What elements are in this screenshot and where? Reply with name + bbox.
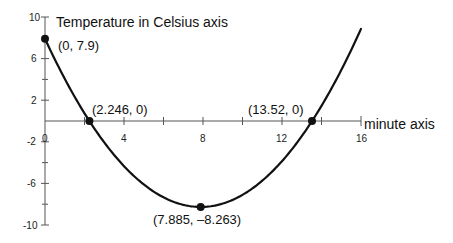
x-tick-label-16: 16 bbox=[356, 133, 368, 144]
marked-points bbox=[41, 35, 316, 211]
y-tick-label-neg2: -2 bbox=[27, 136, 36, 147]
y-tick-label-neg10: -10 bbox=[23, 220, 38, 231]
x-tick-label-8: 8 bbox=[200, 133, 206, 144]
point-root-1 bbox=[85, 117, 93, 125]
point-label-root-2: (13.52, 0) bbox=[248, 102, 304, 117]
x-tick-label-0: 0 bbox=[42, 133, 48, 144]
x-tick-label-12: 12 bbox=[276, 133, 288, 144]
y-tick-label-neg6: -6 bbox=[27, 178, 36, 189]
point-label-start: (0, 7.9) bbox=[58, 38, 99, 53]
point-label-root-1: (2.246, 0) bbox=[92, 102, 148, 117]
temperature-chart: 10 6 2 -2 -6 -10 0 4 8 12 16 Temperature… bbox=[0, 0, 453, 243]
point-label-minimum: (7.885, –8.263) bbox=[153, 212, 241, 227]
point-root-2 bbox=[308, 117, 316, 125]
y-tick-label-2: 2 bbox=[31, 95, 37, 106]
x-axis-title: minute axis bbox=[364, 116, 435, 132]
y-tick-label-6: 6 bbox=[31, 53, 37, 64]
point-minimum bbox=[197, 203, 205, 211]
x-tick-label-4: 4 bbox=[121, 133, 127, 144]
y-tick-label-10: 10 bbox=[29, 12, 41, 23]
y-axis-title: Temperature in Celsius axis bbox=[56, 14, 228, 30]
point-start bbox=[41, 35, 49, 43]
